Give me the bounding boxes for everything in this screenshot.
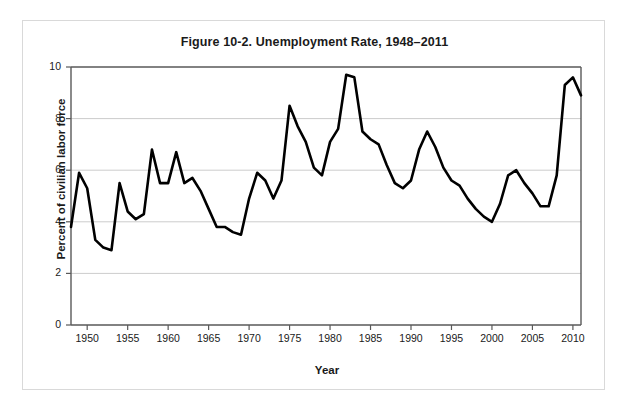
x-tick-label: 1985 [351, 332, 391, 344]
y-tick-label: 8 [35, 112, 61, 124]
y-tick-label: 6 [35, 163, 61, 175]
x-tick-label: 1975 [270, 332, 310, 344]
x-tick-label: 2010 [553, 332, 593, 344]
x-tick-label: 1950 [67, 332, 107, 344]
x-tick-label: 1990 [391, 332, 431, 344]
x-tick-label: 1980 [310, 332, 350, 344]
x-tick-label: 1965 [189, 332, 229, 344]
y-tick-label: 0 [35, 318, 61, 330]
x-tick-label: 1995 [431, 332, 471, 344]
figure-frame: Figure 10-2. Unemployment Rate, 1948–201… [22, 20, 605, 390]
x-tick-label: 1960 [148, 332, 188, 344]
y-tick-label: 10 [35, 60, 61, 72]
x-tick-label: 1970 [229, 332, 269, 344]
plot-area: Percent of civilian labor force Year 024… [23, 21, 606, 391]
x-tick-label: 2005 [512, 332, 552, 344]
y-tick-label: 4 [35, 215, 61, 227]
y-tick-label: 2 [35, 266, 61, 278]
x-tick-label: 1955 [108, 332, 148, 344]
x-tick-label: 2000 [472, 332, 512, 344]
